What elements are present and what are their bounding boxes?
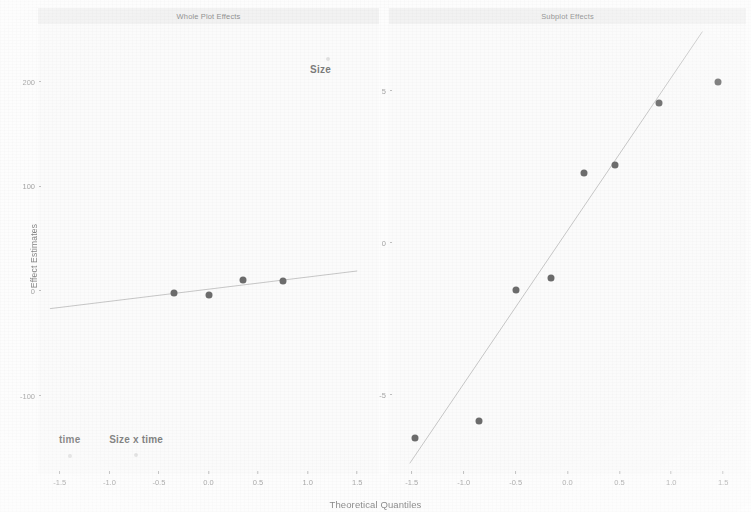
point-annotation: Size <box>310 64 331 75</box>
data-point <box>581 169 588 176</box>
data-point <box>279 278 286 285</box>
x-tick-label: 0.0 <box>203 474 213 487</box>
data-point <box>512 287 519 294</box>
x-tick-label: 0.0 <box>562 474 572 487</box>
x-tick-label: -1.0 <box>103 474 116 487</box>
x-tick-label: -1.5 <box>53 474 66 487</box>
data-point <box>240 277 247 284</box>
x-tick-label: 1.5 <box>352 474 362 487</box>
reference-line-left <box>38 24 379 474</box>
panel-title-left: Whole Plot Effects <box>177 12 241 21</box>
reference-line-right <box>389 24 746 474</box>
data-point <box>612 162 619 169</box>
chart-canvas: Effect Estimates Theoretical Quantiles W… <box>0 0 751 512</box>
data-point <box>411 434 418 441</box>
x-axis-title: Theoretical Quantiles <box>0 499 751 510</box>
x-tick-label: 1.0 <box>666 474 676 487</box>
y-tick-label: 100 <box>22 182 38 191</box>
data-point <box>170 289 177 296</box>
x-tick-label: -1.5 <box>405 474 418 487</box>
plot-region-right: 50-5-1.5-1.0-0.50.00.51.01.5 <box>389 24 746 474</box>
x-tick-label: 1.0 <box>302 474 312 487</box>
point-annotation: Size x time <box>109 434 163 445</box>
y-tick-label: -100 <box>20 391 38 400</box>
panel-whole-plot-effects: Whole Plot Effects 2001000-100-1.5-1.0-0… <box>38 8 379 474</box>
data-point <box>326 57 330 61</box>
data-point <box>205 292 212 299</box>
data-point <box>476 417 483 424</box>
x-tick-label: -0.5 <box>152 474 165 487</box>
panel-title-right: Subplot Effects <box>541 12 594 21</box>
x-tick-label: -1.0 <box>457 474 470 487</box>
panel-strip-left: Whole Plot Effects <box>38 8 379 24</box>
x-tick-label: -0.5 <box>509 474 522 487</box>
y-tick-label: 0 <box>382 238 389 247</box>
data-point <box>714 78 721 85</box>
x-tick-label: 1.5 <box>718 474 728 487</box>
plot-region-left: 2001000-100-1.5-1.0-0.50.00.51.01.5Sizet… <box>38 24 379 474</box>
y-tick-label: 200 <box>22 77 38 86</box>
data-point <box>68 454 72 458</box>
data-point <box>655 100 662 107</box>
y-tick-label: -5 <box>379 390 389 399</box>
panel-strip-right: Subplot Effects <box>389 8 746 24</box>
y-tick-label: 5 <box>382 86 389 95</box>
data-point <box>547 274 554 281</box>
data-point <box>134 453 138 457</box>
panel-subplot-effects: Subplot Effects 50-5-1.5-1.0-0.50.00.51.… <box>389 8 746 474</box>
x-tick-label: 0.5 <box>614 474 624 487</box>
y-tick-label: 0 <box>31 286 38 295</box>
x-tick-label: 0.5 <box>253 474 263 487</box>
point-annotation: time <box>59 434 80 445</box>
